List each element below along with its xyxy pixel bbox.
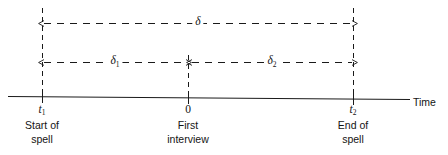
delta-subscript: 1 [116,60,120,69]
axis-label-time: Time [413,97,436,108]
caption-spell-end: End of spell [338,120,368,145]
caption-first-interview: First interview [167,120,208,145]
diagram-canvas [0,0,448,155]
caption-line-1: Start of [25,120,59,131]
caption-line-1: First [167,120,208,131]
tick-label-subscript: 2 [353,108,357,117]
time-axis-line [8,97,410,100]
caption-spell-start: Start of spell [25,120,59,145]
caption-line-2: spell [25,134,59,145]
caption-line-2: spell [338,134,368,145]
caption-line-2: interview [167,134,208,145]
interval-label-delta-one: δ1 [107,55,122,70]
delta-subscript: 2 [273,60,277,69]
tick-label-spell-end: t2 [350,104,357,118]
tick-label-subscript: 1 [42,108,46,117]
tick-label-spell-start: t1 [39,104,46,118]
tick-label-text: 0 [185,103,191,115]
interval-label-delta-total: δ [192,16,203,31]
interval-label-delta-two: δ2 [264,55,279,70]
timeline-diagram: δ δ1 δ2 t1 Start of spell 0 First interv… [0,0,448,155]
caption-line-1: End of [338,120,368,131]
tick-label-first-interview: 0 [185,104,191,118]
delta-symbol: δ [195,15,200,27]
